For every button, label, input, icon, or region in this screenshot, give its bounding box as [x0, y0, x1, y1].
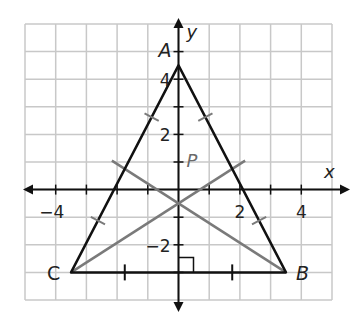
y-axis-label: y	[186, 21, 198, 42]
y-tick-label: −2	[145, 236, 170, 256]
y-tick-label: 4	[160, 70, 171, 90]
x-axis-label: x	[323, 161, 335, 182]
arrow-down-icon	[174, 302, 184, 312]
right-angle-marker	[179, 257, 194, 272]
point-label-a: A	[157, 39, 172, 61]
y-tick-label: 2	[160, 125, 171, 145]
point-label-p: P	[187, 150, 198, 171]
x-tick-label: −4	[39, 202, 64, 222]
x-tick-label: 2	[234, 202, 245, 222]
graph-svg: −42442−2xyABCP	[0, 0, 353, 317]
coordinate-diagram: −42442−2xyABCP	[0, 0, 353, 317]
point-label-b: B	[296, 262, 309, 284]
arrow-right-icon	[340, 185, 350, 195]
point-label-c: C	[47, 262, 60, 284]
arrow-up-icon	[174, 18, 184, 28]
x-tick-label: 4	[296, 202, 307, 222]
